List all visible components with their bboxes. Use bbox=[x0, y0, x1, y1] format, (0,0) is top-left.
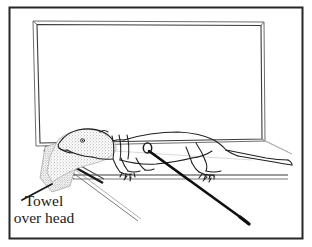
figure-container: Towel over head bbox=[0, 0, 312, 247]
annotation-label-line2: over head bbox=[14, 209, 75, 226]
illustration-canvas: Towel over head bbox=[0, 0, 312, 247]
annotation-label-line1: Towel bbox=[25, 192, 64, 209]
annotation-towel-over-head: Towel over head bbox=[14, 184, 75, 226]
injection bbox=[143, 143, 249, 224]
